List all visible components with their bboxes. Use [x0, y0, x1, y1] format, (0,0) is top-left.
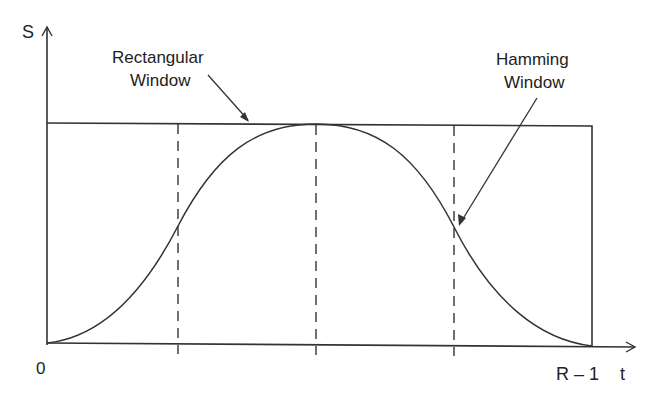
rectangular-label-line2: Window	[130, 71, 191, 90]
y-axis-label: S	[22, 22, 34, 42]
y-axis	[42, 27, 52, 345]
rectangular-window	[47, 123, 592, 346]
x-start-label: 0	[36, 359, 45, 378]
x-axis	[47, 342, 635, 352]
hamming-arrow	[458, 98, 537, 226]
hamming-window-curve	[47, 124, 592, 346]
window-diagram: S t 0 R – 1 Rectangular Window Hamming W…	[0, 0, 665, 398]
hamming-label-line1: Hamming	[496, 50, 569, 69]
x-axis-label: t	[620, 364, 625, 384]
rectangular-label-line1: Rectangular	[112, 48, 204, 67]
rectangular-arrow	[208, 75, 249, 122]
hamming-label-line2: Window	[504, 73, 565, 92]
x-end-label: R – 1	[556, 364, 599, 384]
dashed-markers	[178, 124, 454, 356]
